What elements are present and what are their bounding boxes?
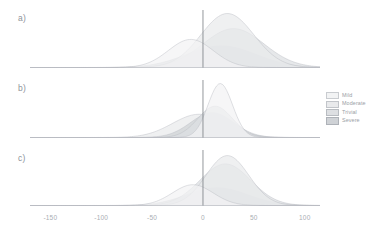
panel-a-plot bbox=[30, 8, 320, 70]
x-tick-label: -50 bbox=[147, 214, 157, 221]
panel-b-label: b) bbox=[18, 84, 26, 93]
x-tick-label: 100 bbox=[299, 214, 310, 221]
legend-item-moderate[interactable]: Moderate bbox=[326, 100, 376, 108]
x-axis: -150-100-50050100 bbox=[30, 206, 330, 230]
legend-item-label: Mild bbox=[342, 93, 352, 98]
legend: MildModerateTrivialSevere bbox=[326, 92, 376, 126]
legend-swatch-icon bbox=[326, 101, 339, 108]
x-tick-label: -150 bbox=[43, 214, 57, 221]
panel-a-svg bbox=[30, 8, 320, 70]
legend-swatch-icon bbox=[326, 92, 339, 99]
panel-c-label: c) bbox=[18, 154, 26, 163]
legend-item-label: Moderate bbox=[342, 101, 366, 106]
x-tick-label: 0 bbox=[201, 214, 205, 221]
panel-a-label: a) bbox=[18, 14, 26, 23]
panel-c-svg bbox=[30, 148, 320, 208]
legend-item-label: Severe bbox=[342, 118, 360, 123]
x-tick-label: 50 bbox=[250, 214, 258, 221]
legend-item-mild[interactable]: Mild bbox=[326, 92, 376, 100]
panel-a: a) bbox=[0, 8, 330, 70]
panel-c-plot bbox=[30, 148, 320, 208]
x-tick-label: -100 bbox=[94, 214, 108, 221]
legend-item-severe[interactable]: Severe bbox=[326, 117, 376, 125]
density-figure: a) b) c) -150-100-50050100 MildModerateT… bbox=[0, 0, 377, 234]
legend-item-trivial[interactable]: Trivial bbox=[326, 109, 376, 117]
panel-c: c) bbox=[0, 148, 330, 208]
legend-swatch-icon bbox=[326, 109, 339, 116]
panel-b: b) bbox=[0, 78, 330, 140]
panel-b-plot bbox=[30, 78, 320, 140]
panel-b-svg bbox=[30, 78, 320, 140]
legend-item-label: Trivial bbox=[342, 110, 357, 115]
legend-swatch-icon bbox=[326, 117, 339, 124]
